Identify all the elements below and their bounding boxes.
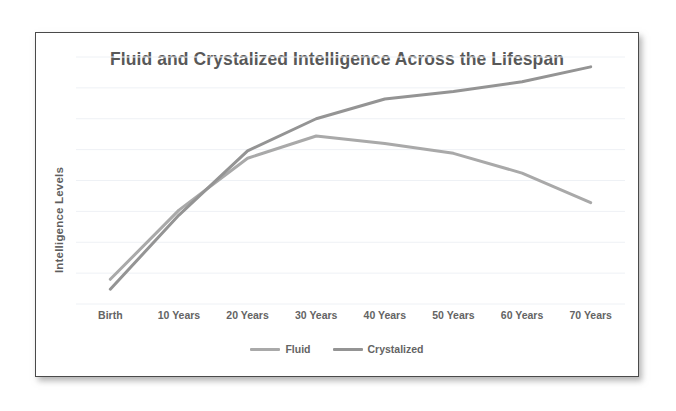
x-axis-tick-4: 40 Years [351,309,420,327]
x-axis-tick-7: 70 Years [556,309,625,327]
legend-swatch-icon [250,348,280,351]
series-line-fluid [110,136,590,279]
line-chart-svg [76,57,625,304]
legend-entry-crystalized[interactable]: Crystalized [333,343,424,355]
y-axis-title-label: Intelligence Levels [53,167,65,273]
y-axis-title: Intelligence Levels [50,145,68,295]
legend-label: Fluid [285,343,310,355]
x-axis-tick-1: 10 Years [145,309,214,327]
x-axis-tick-0: Birth [76,309,145,327]
series-line-crystalized [110,67,590,289]
chart-legend: FluidCrystalized [36,343,638,355]
legend-swatch-icon [333,348,363,351]
chart-container: Fluid and Crystalized Intelligence Acros… [35,32,639,377]
x-axis-tick-2: 20 Years [213,309,282,327]
data-series-group [110,67,590,289]
legend-entry-fluid[interactable]: Fluid [250,343,310,355]
plot-area [76,57,625,304]
x-axis-tick-6: 60 Years [488,309,557,327]
x-axis-tick-5: 50 Years [419,309,488,327]
x-axis-tick-3: 30 Years [282,309,351,327]
legend-label: Crystalized [368,343,424,355]
x-axis-labels: Birth10 Years20 Years30 Years40 Years50 … [76,309,625,327]
